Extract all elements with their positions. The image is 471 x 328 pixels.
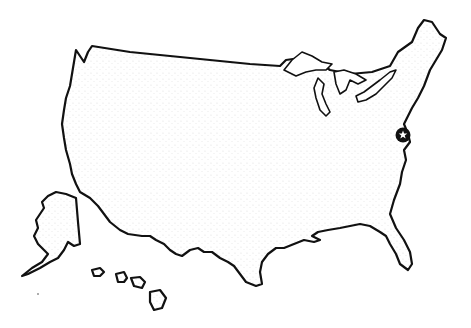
ink-speck [37, 293, 39, 295]
contiguous-us [62, 20, 446, 286]
hawaii [92, 268, 166, 310]
alaska [22, 192, 80, 276]
us-map [0, 0, 471, 328]
hawaii-island-4 [150, 290, 166, 310]
hawaii-island-1 [92, 268, 104, 276]
hawaii-island-2 [116, 272, 127, 282]
hawaii-island-3 [131, 277, 145, 288]
capital-marker[interactable] [396, 128, 411, 143]
